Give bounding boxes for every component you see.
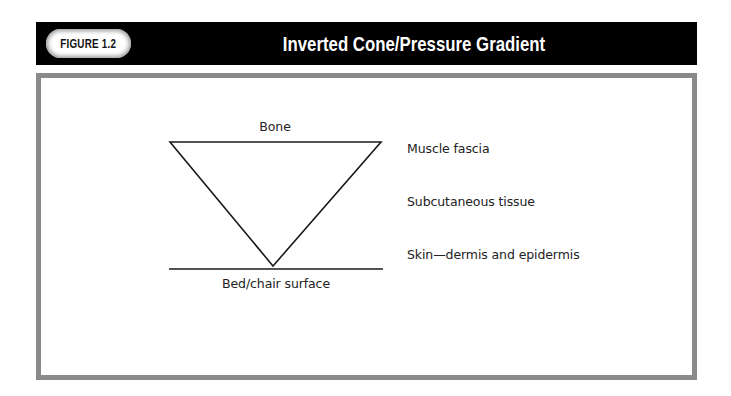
bone-label: Bone (259, 119, 290, 134)
layer-label-skin: Skin—dermis and epidermis (407, 247, 580, 262)
inverted-cone-diagram (0, 0, 731, 396)
layer-label-subcutaneous-tissue: Subcutaneous tissue (407, 194, 535, 209)
layer-label-muscle-fascia: Muscle fascia (407, 141, 490, 156)
inverted-cone-shape (170, 142, 381, 266)
surface-label: Bed/chair surface (222, 276, 330, 291)
